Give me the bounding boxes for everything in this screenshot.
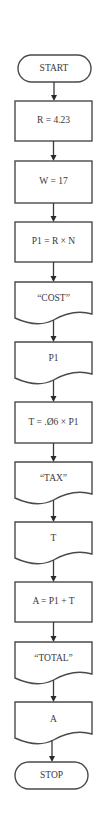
process-box-assign-w: W = 17 [15,161,92,203]
document-label: P1 [48,353,58,363]
connector-arrow [51,560,57,582]
document-label: T [51,533,57,543]
document-label: “COST” [37,293,70,303]
document-print-p1: P1 [15,342,92,384]
process-box-assign-r: R = 4.23 [15,101,92,141]
connector-arrow [51,203,57,222]
process-label: R = 4.23 [37,115,70,125]
connector-arrow [51,380,57,402]
connector-arrow [51,622,57,642]
flowchart: START R = 4.23 W = 17 P1 = R × N “COST” [0,0,98,824]
connector-arrow [51,320,57,342]
document-print-cost-label: “COST” [15,282,92,324]
start-terminal: START [18,55,91,82]
document-print-t: T [15,522,92,564]
process-label: A = P1 + T [32,596,74,606]
document-label: “TOTAL” [34,653,73,663]
process-label: T = .Ø6 × P1 [29,417,79,427]
start-label: START [40,63,69,73]
document-label: A [50,714,57,724]
process-box-calc-tax: T = .Ø6 × P1 [15,402,92,443]
connector-arrow [51,141,57,161]
document-print-a: A [15,702,92,744]
document-print-total-label: “TOTAL” [15,642,92,684]
connector-arrow [51,680,57,702]
process-label: W = 17 [39,176,68,186]
document-label: “TAX” [40,473,67,483]
connector-arrow [51,500,57,522]
connector-arrow [51,82,57,101]
process-label: P1 = R × N [32,236,76,246]
stop-label: STOP [40,770,63,780]
connector-arrow [51,443,57,462]
document-print-tax-label: “TAX” [15,462,92,504]
process-box-calc-total: A = P1 + T [15,582,92,622]
stop-terminal: STOP [15,762,88,789]
connector-arrow [49,740,55,762]
process-box-calc-p1: P1 = R × N [15,222,92,262]
connector-arrow [51,262,57,282]
